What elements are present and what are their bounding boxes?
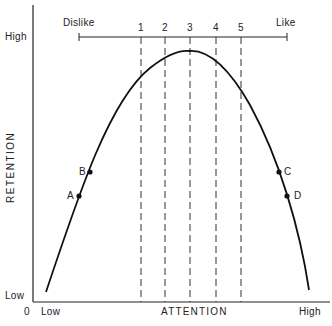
point-c-label: C <box>284 166 292 177</box>
point-b <box>87 169 92 174</box>
y-high-label: High <box>5 31 27 42</box>
x-low-label: Low <box>41 306 60 317</box>
scale-tick-5: 5 <box>238 22 244 33</box>
diagram-canvas <box>0 0 332 326</box>
point-a <box>76 193 81 198</box>
scale-tick-4: 4 <box>213 22 219 33</box>
point-d <box>284 193 289 198</box>
x-axis-title: ATTENTION <box>161 306 228 317</box>
x-high-label: High <box>299 306 321 317</box>
y-axis-title: RETENTION <box>5 132 16 203</box>
y-low-label: Low <box>5 290 24 301</box>
point-c <box>276 169 281 174</box>
scale-tick-1: 1 <box>138 22 144 33</box>
point-b-label: B <box>79 166 86 177</box>
scale-tick-2: 2 <box>162 22 168 33</box>
scale-dashed-lines <box>141 37 241 302</box>
like-label: Like <box>276 17 296 28</box>
point-a-label: A <box>67 190 74 201</box>
origin-label: 0 <box>24 306 30 317</box>
scale-tick-3: 3 <box>187 22 193 33</box>
dislike-label: Dislike <box>63 17 95 28</box>
point-d-label: D <box>294 190 302 201</box>
